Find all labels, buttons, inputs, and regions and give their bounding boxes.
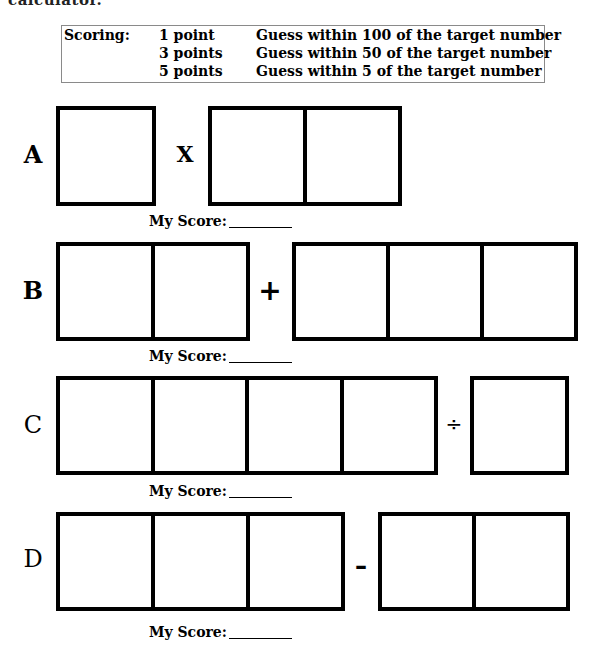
- problem-d-score-field[interactable]: [229, 638, 292, 639]
- scoring-points: 5 points: [159, 63, 223, 79]
- digit-box[interactable]: [155, 246, 246, 337]
- digit-box[interactable]: [60, 110, 152, 202]
- problem-a-score-field[interactable]: [229, 227, 292, 228]
- cutoff-header-text: calculator.: [8, 0, 102, 9]
- digit-box[interactable]: [307, 110, 398, 202]
- problem-b-score-field[interactable]: [229, 362, 292, 363]
- scoring-row: 3 points Guess within 50 of the target n…: [62, 45, 544, 63]
- digit-box[interactable]: [155, 380, 250, 471]
- digit-box[interactable]: [60, 516, 155, 607]
- digit-box[interactable]: [390, 246, 484, 337]
- digit-box[interactable]: [344, 380, 435, 471]
- problem-a-left-operand: [56, 106, 156, 206]
- problem-b-letter: B: [18, 276, 48, 305]
- problem-b-right-operand: [292, 242, 578, 341]
- problem-c-left-operand: [56, 376, 438, 475]
- digit-box[interactable]: [296, 246, 390, 337]
- problem-d-score-label: My Score:: [149, 624, 227, 640]
- problem-d-left-operand: [56, 512, 345, 611]
- digit-box[interactable]: [60, 380, 155, 471]
- digit-box[interactable]: [382, 516, 476, 607]
- digit-box[interactable]: [484, 246, 574, 337]
- digit-box[interactable]: [212, 110, 307, 202]
- digit-box[interactable]: [155, 516, 250, 607]
- problem-d-letter: D: [18, 545, 48, 573]
- scoring-description: Guess within 50 of the target number: [256, 45, 551, 61]
- scoring-table: Scoring: 1 point Guess within 100 of the…: [61, 25, 545, 83]
- digit-box[interactable]: [474, 380, 565, 471]
- scoring-points: 3 points: [159, 45, 223, 61]
- multiply-operator: X: [170, 141, 200, 167]
- divide-operator: ÷: [439, 412, 469, 436]
- problem-c-score-field[interactable]: [229, 497, 292, 498]
- problem-d-right-operand: [378, 512, 570, 611]
- problem-a-letter: A: [18, 140, 48, 169]
- scoring-points: 1 point: [159, 27, 215, 43]
- scoring-row: 1 point Guess within 100 of the target n…: [62, 27, 544, 45]
- digit-box[interactable]: [249, 380, 344, 471]
- problem-c-letter: C: [18, 411, 48, 439]
- problem-c-score-label: My Score:: [149, 483, 227, 499]
- plus-operator: +: [255, 274, 285, 307]
- scoring-row: 5 points Guess within 5 of the target nu…: [62, 63, 544, 81]
- scoring-description: Guess within 100 of the target number: [256, 27, 561, 43]
- problem-c-right-operand: [470, 376, 569, 475]
- digit-box[interactable]: [60, 246, 155, 337]
- problem-a-right-operand: [208, 106, 402, 206]
- scoring-description: Guess within 5 of the target number: [256, 63, 542, 79]
- problem-a-score-label: My Score:: [149, 213, 227, 229]
- problem-b-left-operand: [56, 242, 250, 341]
- problem-b-score-label: My Score:: [149, 348, 227, 364]
- minus-operator: –: [346, 552, 376, 580]
- digit-box[interactable]: [250, 516, 341, 607]
- digit-box[interactable]: [476, 516, 566, 607]
